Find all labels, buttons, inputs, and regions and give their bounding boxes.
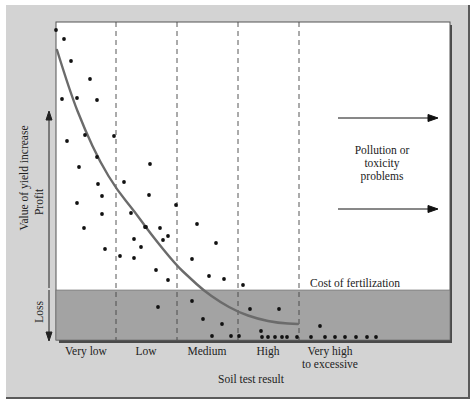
data-point (374, 335, 378, 339)
loss-band (56, 290, 450, 340)
data-point (195, 222, 199, 226)
data-point (154, 268, 158, 272)
category-label: Very highto excessive (302, 345, 358, 370)
data-point (161, 238, 165, 242)
data-point (95, 155, 99, 159)
data-point (220, 322, 224, 326)
data-point (62, 37, 66, 41)
data-point (100, 212, 104, 216)
data-point (88, 77, 92, 81)
data-point (354, 335, 358, 339)
data-point (259, 329, 263, 333)
data-point (95, 98, 99, 102)
data-point (75, 96, 79, 100)
data-point (285, 335, 289, 339)
arrow-down-icon (46, 332, 52, 341)
data-point (112, 134, 116, 138)
y-axis-label: Value of yield increase (18, 125, 31, 230)
data-point (190, 299, 194, 303)
data-point (166, 278, 170, 282)
data-point (69, 59, 73, 63)
data-point (333, 335, 337, 339)
data-point (214, 241, 218, 245)
data-point (273, 335, 277, 339)
x-axis-label: Soil test result (218, 373, 285, 385)
data-point (266, 335, 270, 339)
data-point (237, 334, 241, 338)
data-point (309, 335, 313, 339)
data-point (122, 180, 126, 184)
data-point (318, 324, 322, 328)
loss-label: Loss (33, 301, 45, 323)
data-point (201, 317, 205, 321)
data-point (60, 97, 64, 101)
category-label: Very low (65, 345, 108, 358)
data-point (260, 335, 264, 339)
data-point (143, 225, 147, 229)
category-labels: Very lowLowMediumHighVery highto excessi… (65, 345, 358, 370)
data-point (129, 211, 133, 215)
data-point (158, 226, 162, 230)
data-point (96, 182, 100, 186)
data-point (103, 247, 107, 251)
data-point (148, 162, 152, 166)
category-label: Low (135, 345, 157, 357)
arrow-up-icon (46, 111, 52, 120)
data-point (139, 245, 143, 249)
data-point (54, 28, 58, 32)
data-point (365, 335, 369, 339)
data-point (132, 237, 136, 241)
category-label: Medium (188, 345, 227, 357)
data-point (323, 335, 327, 339)
data-point (132, 256, 136, 260)
data-point (277, 307, 281, 311)
cost-of-fertilization-label: Cost of fertilization (310, 277, 400, 289)
data-point (174, 203, 178, 207)
data-point (295, 335, 299, 339)
data-point (65, 139, 69, 143)
data-point (210, 334, 214, 338)
data-point (190, 257, 194, 261)
data-point (118, 254, 122, 258)
data-point (166, 234, 170, 238)
data-point (280, 335, 284, 339)
data-point (241, 283, 245, 287)
profit-label: Profit (33, 188, 45, 215)
response-chart: Cost of fertilization Pollution ortoxici… (0, 0, 475, 408)
data-point (77, 165, 81, 169)
data-point (100, 194, 104, 198)
data-point (343, 335, 347, 339)
data-point (229, 334, 233, 338)
data-point (207, 274, 211, 278)
data-point (147, 193, 151, 197)
y-axis-arrows (46, 111, 52, 341)
data-point (83, 133, 87, 137)
data-point (75, 201, 79, 205)
category-label: High (257, 345, 280, 358)
data-point (222, 277, 226, 281)
data-point (82, 226, 86, 230)
data-point (248, 307, 252, 311)
data-point (156, 305, 160, 309)
